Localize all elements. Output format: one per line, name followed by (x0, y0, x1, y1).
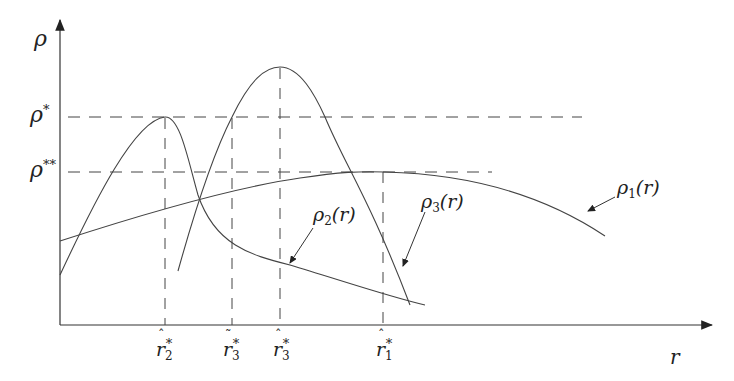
tick-sub: 3 (232, 349, 240, 363)
tick-sup: * (386, 336, 393, 351)
curve-base: ρ (617, 176, 628, 198)
rho-double-star-sup: ** (43, 157, 56, 172)
tick-sup: * (166, 336, 173, 351)
rho3-curve (178, 67, 410, 305)
curve-base: ρ (313, 203, 324, 225)
hat-accent: ˆ (275, 327, 282, 342)
tick-sub: 2 (165, 349, 173, 363)
tick-sup: * (283, 336, 290, 351)
tick-sup: * (233, 336, 240, 351)
diagram-canvas: ρ r ρ* ρ** rˆ2* r˜3* rˆ3* rˆ1* ρ1(r) ρ2(… (0, 0, 734, 381)
rho2-label: ρ2(r) (313, 203, 356, 228)
tick-sub: 3 (282, 349, 290, 363)
tick-r-hat-2-star: rˆ2* (156, 336, 172, 363)
rho1-label: ρ1(r) (617, 176, 660, 201)
curve-arg: (r) (440, 190, 464, 212)
x-axis-label: r (670, 345, 680, 369)
rho-double-star-base: ρ (30, 157, 43, 182)
tick-r-hat-1-star: rˆ1* (376, 336, 392, 363)
tick-r-hat-3-star: rˆ3* (273, 336, 289, 363)
tick-r-tilde-3-star: r˜3* (223, 336, 239, 363)
y-axis-label: ρ (34, 26, 47, 51)
rho1-pointer-arrow (588, 197, 615, 211)
rho-double-star-label: ρ** (30, 157, 56, 182)
curve-sub: 1 (628, 187, 636, 201)
rho2-pointer-arrow (290, 228, 313, 263)
curve-arg: (r) (332, 203, 356, 225)
curve-sub: 2 (324, 214, 332, 228)
rho-star-label: ρ* (30, 102, 49, 127)
rho-star-base: ρ (30, 102, 43, 127)
curve-arg: (r) (636, 176, 660, 198)
rho-star-sup: * (43, 102, 50, 117)
tilde-accent: ˜ (225, 327, 232, 342)
rho3-pointer-arrow (403, 212, 425, 266)
rho3-label: ρ3(r) (421, 190, 464, 215)
curve-base: ρ (421, 190, 432, 212)
hat-accent: ˆ (158, 327, 165, 342)
curve-sub: 3 (432, 201, 440, 215)
tick-sub: 1 (385, 349, 393, 363)
hat-accent: ˆ (378, 327, 385, 342)
